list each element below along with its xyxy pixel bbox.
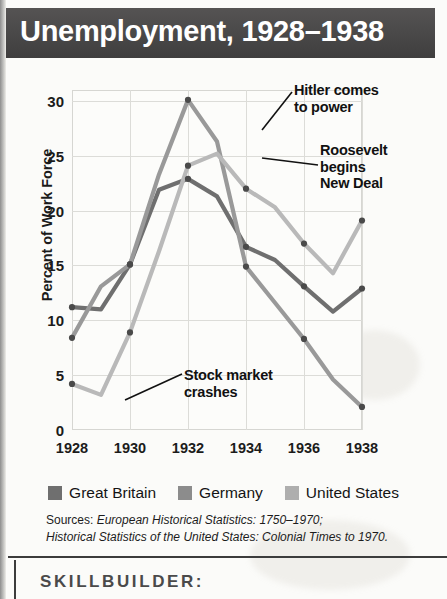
title-banner: Unemployment, 1928–1938 — [6, 8, 435, 58]
annotation-leader-lines — [0, 62, 447, 472]
annotation-hitler: Hitler comes to power — [294, 82, 444, 115]
sources-line-1: Sources: European Historical Statistics:… — [46, 512, 441, 529]
annotation-crash-line1: Stock market — [184, 367, 304, 384]
chart-page: Unemployment, 1928–1938 Percent of Work … — [0, 0, 447, 599]
legend-item: United States — [285, 484, 399, 502]
legend-item: Great Britain — [48, 484, 156, 502]
annotation-roosevelt-line2: begins — [320, 159, 445, 176]
legend-item: Germany — [178, 484, 263, 502]
sources-note: Sources: European Historical Statistics:… — [46, 512, 441, 546]
annotation-hitler-line1: Hitler comes — [294, 82, 444, 99]
legend-swatch — [178, 486, 192, 500]
annotation-crash-line2: crashes — [184, 384, 304, 401]
skillbuilder-box: SKILLBUILDER: — [14, 560, 447, 599]
skillbuilder-label: SKILLBUILDER: — [40, 572, 204, 592]
legend-label: United States — [306, 484, 399, 502]
legend-swatch — [48, 486, 62, 500]
legend-label: Germany — [199, 484, 263, 502]
annotation-roosevelt: Roosevelt begins New Deal — [320, 142, 445, 192]
annotation-stock-market-crash: Stock market crashes — [184, 367, 304, 400]
annotation-roosevelt-line1: Roosevelt — [320, 142, 445, 159]
annotation-roosevelt-line3: New Deal — [320, 175, 445, 192]
annotation-hitler-line2: to power — [294, 99, 444, 116]
page-title: Unemployment, 1928–1938 — [20, 15, 384, 48]
skillbuilder-divider — [8, 556, 447, 558]
chart-container: Percent of Work Force 051015202530 19281… — [0, 62, 447, 472]
legend-label: Great Britain — [69, 484, 156, 502]
chart-legend: Great BritainGermanyUnited States — [0, 478, 447, 508]
legend-swatch — [285, 486, 299, 500]
sources-lead: Sources: — [46, 513, 93, 527]
sources-title-1: European Historical Statistics: 1750–197… — [93, 513, 322, 527]
sources-title-2: Historical Statistics of the United Stat… — [46, 529, 441, 546]
